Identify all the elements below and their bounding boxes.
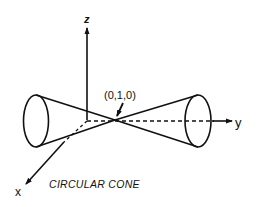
x-axis-label: x xyxy=(15,185,21,199)
z-axis-label: z xyxy=(83,13,90,25)
apex-pointer-arrow xyxy=(117,103,123,116)
y-axis-label: y xyxy=(235,115,242,130)
apex-label: (0,1,0) xyxy=(104,89,136,101)
x-axis xyxy=(26,121,87,184)
circular-cone-diagram: z y x (0,1,0) CIRCULAR CONE xyxy=(0,0,257,207)
diagram-title: CIRCULAR CONE xyxy=(49,178,141,190)
